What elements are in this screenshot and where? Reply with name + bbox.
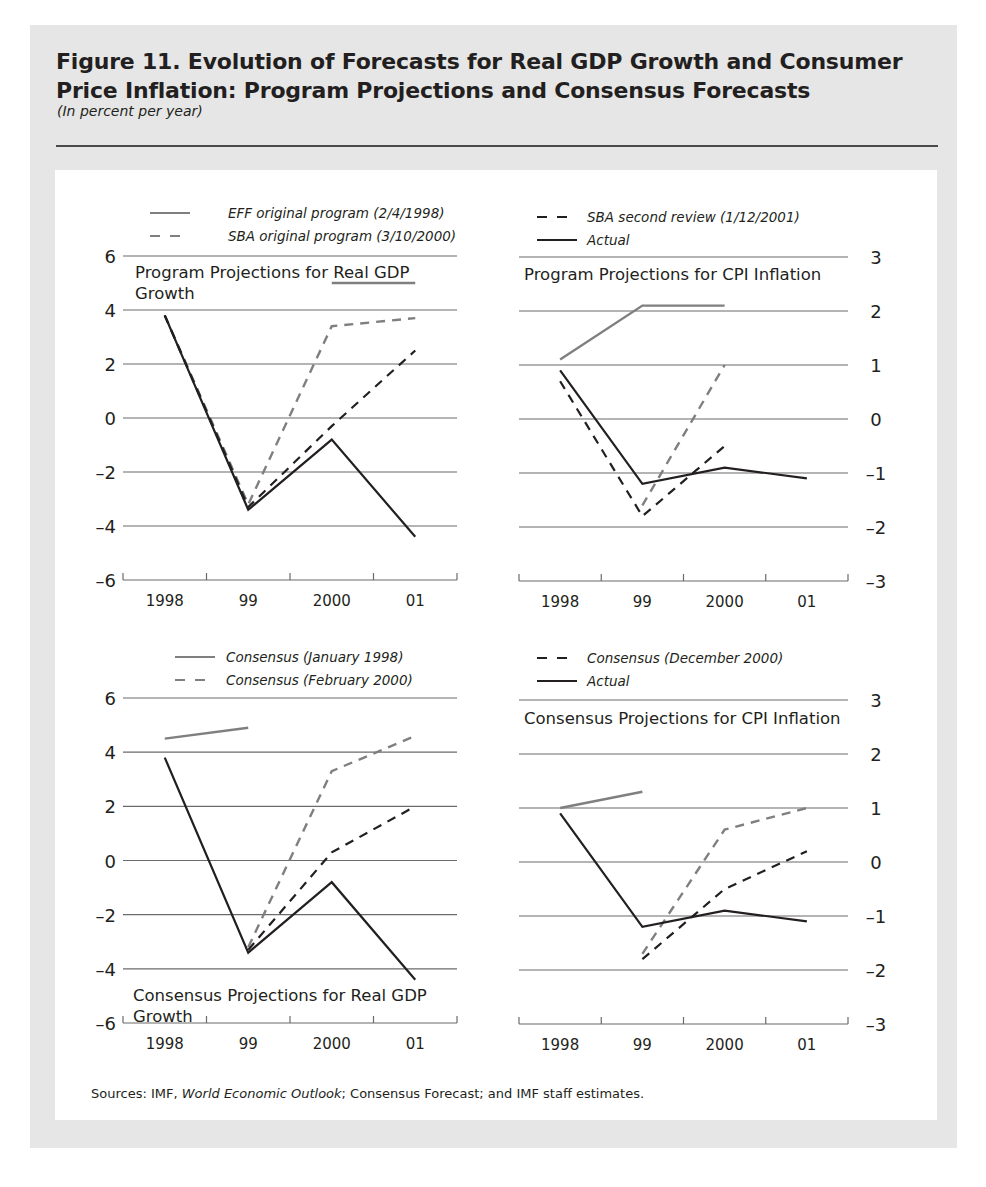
series-line <box>248 806 415 950</box>
legend-label: SBA second review (1/12/2001) <box>587 209 800 225</box>
y-tick-label: –3 <box>866 1014 886 1035</box>
legend-label: SBA original program (3/10/2000) <box>228 228 456 244</box>
y-tick-label: –1 <box>866 906 886 927</box>
x-tick-label: 2000 <box>313 1035 351 1053</box>
legend-label: Consensus (January 1998) <box>226 649 403 665</box>
y-tick-label: 3 <box>870 690 881 711</box>
y-tick-label: 6 <box>105 688 116 709</box>
x-tick-label: 01 <box>406 592 425 610</box>
y-tick-label: 4 <box>105 300 116 321</box>
series-line <box>560 813 807 926</box>
x-tick-label: 99 <box>239 592 258 610</box>
x-tick-label: 99 <box>633 1036 652 1054</box>
x-tick-label: 1998 <box>146 1035 184 1053</box>
y-tick-label: 2 <box>870 744 881 765</box>
series-line <box>165 758 416 980</box>
sources-note: Sources: IMF, World Economic Outlook; Co… <box>91 1086 644 1101</box>
y-tick-label: –6 <box>96 570 116 591</box>
y-tick-label: 3 <box>870 247 881 268</box>
series-line <box>560 381 725 516</box>
x-tick-label: 99 <box>239 1035 258 1053</box>
chart-program-gdp: 6420–2–4–6199899200001Program Projection… <box>96 205 457 610</box>
y-tick-label: –1 <box>866 463 886 484</box>
chart-program-cpi: 3210–1–2–3199899200001Program Projection… <box>519 209 886 611</box>
series-line <box>642 851 807 959</box>
legend-label: Actual <box>586 232 630 248</box>
x-tick-label: 01 <box>406 1035 425 1053</box>
series-line <box>642 808 807 954</box>
chart-consensus-gdp: 6420–2–4–6199899200001Consensus Projecti… <box>96 649 457 1053</box>
chart-title: Program Projections for CPI Inflation <box>524 265 821 284</box>
y-tick-label: 2 <box>105 354 116 375</box>
series-line <box>560 306 725 360</box>
x-tick-label: 1998 <box>146 592 184 610</box>
series-line <box>642 365 724 505</box>
y-tick-label: 0 <box>870 409 881 430</box>
chart-consensus-cpi: 3210–1–2–3199899200001Consensus Projecti… <box>519 650 886 1054</box>
chart-title: Consensus Projections for Real GDP <box>133 986 427 1005</box>
y-tick-label: 1 <box>870 355 881 376</box>
x-tick-label: 2000 <box>313 592 351 610</box>
y-tick-label: –6 <box>96 1013 116 1034</box>
y-tick-label: –2 <box>96 905 116 926</box>
legend-label: Consensus (December 2000) <box>587 650 783 666</box>
x-tick-label: 2000 <box>706 593 744 611</box>
series-line <box>165 315 416 507</box>
chart-title: Growth <box>133 1007 193 1026</box>
y-tick-label: 6 <box>105 246 116 267</box>
sources-suffix: ; Consensus Forecast; and IMF staff esti… <box>342 1086 645 1101</box>
y-tick-label: 2 <box>870 301 881 322</box>
series-line <box>165 728 249 739</box>
chart-title: Growth <box>135 284 195 303</box>
y-tick-label: 0 <box>870 852 881 873</box>
chart-title: Consensus Projections for CPI Inflation <box>524 709 841 728</box>
y-tick-label: –2 <box>96 462 116 483</box>
y-tick-label: –3 <box>866 571 886 592</box>
x-tick-label: 01 <box>797 593 816 611</box>
series-line <box>248 736 415 947</box>
y-tick-label: –4 <box>96 959 116 980</box>
y-tick-label: 4 <box>105 742 116 763</box>
y-tick-label: 0 <box>105 851 116 872</box>
legend-label: EFF original program (2/4/1998) <box>228 205 444 221</box>
y-tick-label: –4 <box>96 516 116 537</box>
charts-canvas: 6420–2–4–6199899200001Program Projection… <box>0 0 986 1187</box>
x-tick-label: 1998 <box>541 593 579 611</box>
x-tick-label: 2000 <box>706 1036 744 1054</box>
sources-italic: World Economic Outlook <box>182 1086 342 1101</box>
series-line <box>165 315 416 536</box>
y-tick-label: –2 <box>866 960 886 981</box>
x-tick-label: 01 <box>797 1036 816 1054</box>
y-tick-label: 2 <box>105 796 116 817</box>
y-tick-label: 0 <box>105 408 116 429</box>
x-tick-label: 1998 <box>541 1036 579 1054</box>
series-line <box>560 792 642 808</box>
sources-prefix: Sources: IMF, <box>91 1086 182 1101</box>
chart-title: Program Projections for Real GDP <box>135 263 410 282</box>
x-tick-label: 99 <box>633 593 652 611</box>
legend-label: Actual <box>586 673 630 689</box>
legend-label: Consensus (February 2000) <box>226 672 413 688</box>
y-tick-label: –2 <box>866 517 886 538</box>
series-line <box>560 370 807 483</box>
y-tick-label: 1 <box>870 798 881 819</box>
